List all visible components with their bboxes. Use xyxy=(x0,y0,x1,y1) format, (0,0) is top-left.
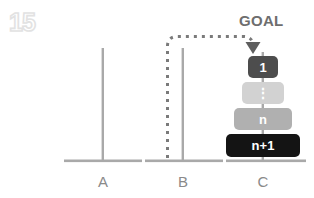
peg-a-base xyxy=(64,160,142,163)
disc-n-label: n xyxy=(259,113,267,126)
peg-label-c: C xyxy=(251,174,275,189)
disc-ellipsis-label: ⋮ xyxy=(256,86,270,100)
peg-c-base xyxy=(226,160,306,163)
disc-n-plus-1: n+1 xyxy=(226,134,300,157)
peg-b-rod xyxy=(182,48,184,161)
goal-label: GOAL xyxy=(239,13,284,28)
hanoi-diagram-canvas: 15 GOAL 1 ⋮ n n+1 A B C xyxy=(0,0,314,198)
disc-ellipsis: ⋮ xyxy=(242,82,284,104)
disc-n-plus-1-label: n+1 xyxy=(252,139,275,152)
peg-b-base xyxy=(145,160,223,163)
peg-a-rod xyxy=(102,48,104,161)
disc-1: 1 xyxy=(248,56,278,78)
move-arrowhead-icon xyxy=(246,42,261,54)
peg-label-a: A xyxy=(91,174,115,189)
disc-n: n xyxy=(234,108,292,130)
disc-1-label: 1 xyxy=(259,61,266,74)
peg-label-b: B xyxy=(171,174,195,189)
